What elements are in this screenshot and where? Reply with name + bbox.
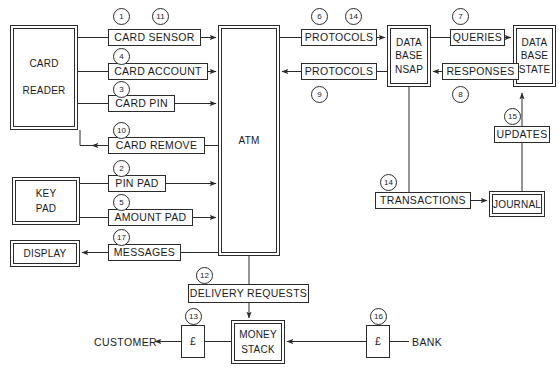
node-card-reader[interactable]: CARD READER	[10, 25, 78, 130]
node-key-pad-label: KEY PAD	[15, 180, 77, 222]
flow-responses[interactable]: RESPONSES	[442, 63, 519, 80]
node-money-stack-label: MONEY STACK	[234, 323, 282, 361]
node-atm[interactable]: ATM	[218, 25, 280, 256]
reference-tag-2: 2	[113, 160, 130, 177]
reference-tag-6: 6	[311, 8, 328, 25]
line-card-remove-to-card-reader	[80, 130, 108, 146]
flow-transactions[interactable]: TRANSACTIONS	[375, 192, 471, 209]
reference-tag-12: 12	[196, 267, 213, 284]
flow-messages[interactable]: MESSAGES	[108, 244, 181, 261]
node-database-state-label: DATA BASE STATE	[516, 28, 553, 84]
flow-card-account[interactable]: CARD ACCOUNT	[108, 63, 208, 80]
reference-tag-8: 8	[452, 86, 469, 103]
label-customer: CUSTOMER	[94, 336, 157, 348]
flow-money-from-bank[interactable]: £	[366, 325, 390, 358]
flow-protocols-out[interactable]: PROTOCOLS	[301, 29, 377, 46]
reference-tag-11: 11	[152, 8, 169, 25]
node-journal-label: JOURNAL	[492, 194, 542, 214]
flow-delivery-requests[interactable]: DELIVERY REQUESTS	[188, 284, 309, 303]
flow-amount-pad[interactable]: AMOUNT PAD	[108, 209, 193, 226]
node-atm-label: ATM	[221, 28, 277, 253]
flow-updates[interactable]: UPDATES	[494, 126, 550, 143]
reference-tag-13: 13	[185, 308, 202, 325]
reference-tag-4: 4	[113, 48, 130, 65]
reference-tag-17: 17	[113, 229, 130, 246]
node-display[interactable]: DISPLAY	[10, 240, 80, 267]
reference-tag-14: 14	[380, 174, 397, 191]
reference-tag-9: 9	[311, 86, 328, 103]
node-database-state[interactable]: DATA BASE STATE	[513, 25, 556, 87]
flow-card-remove[interactable]: CARD REMOVE	[108, 137, 205, 154]
node-database-nsap-label: DATA BASE NSAP	[390, 28, 428, 84]
node-key-pad[interactable]: KEY PAD	[12, 177, 80, 225]
reference-tag-10: 10	[113, 122, 130, 139]
reference-tag-16: 16	[370, 308, 387, 325]
flow-card-sensor[interactable]: CARD SENSOR	[108, 29, 201, 46]
reference-tag-1: 1	[113, 8, 130, 25]
flow-money-to-customer[interactable]: £	[181, 325, 205, 358]
node-display-label: DISPLAY	[13, 243, 77, 264]
flow-pin-pad[interactable]: PIN PAD	[108, 175, 166, 192]
node-money-stack[interactable]: MONEY STACK	[231, 320, 285, 364]
reference-tag-15: 15	[504, 108, 521, 125]
reference-tag-5: 5	[113, 194, 130, 211]
node-card-reader-label: CARD READER	[13, 28, 75, 127]
node-database-nsap[interactable]: DATA BASE NSAP	[387, 25, 431, 87]
label-bank: BANK	[412, 336, 442, 348]
reference-tag-7: 7	[452, 8, 469, 25]
reference-tag-3: 3	[113, 81, 130, 98]
flow-protocols-in[interactable]: PROTOCOLS	[301, 63, 377, 80]
reference-tag-14: 14	[345, 8, 362, 25]
node-journal[interactable]: JOURNAL	[489, 191, 545, 217]
atm-dataflow-diagram: CARD READER KEY PAD DISPLAY ATM DATA BAS…	[0, 0, 559, 376]
flow-queries[interactable]: QUERIES	[450, 29, 505, 46]
